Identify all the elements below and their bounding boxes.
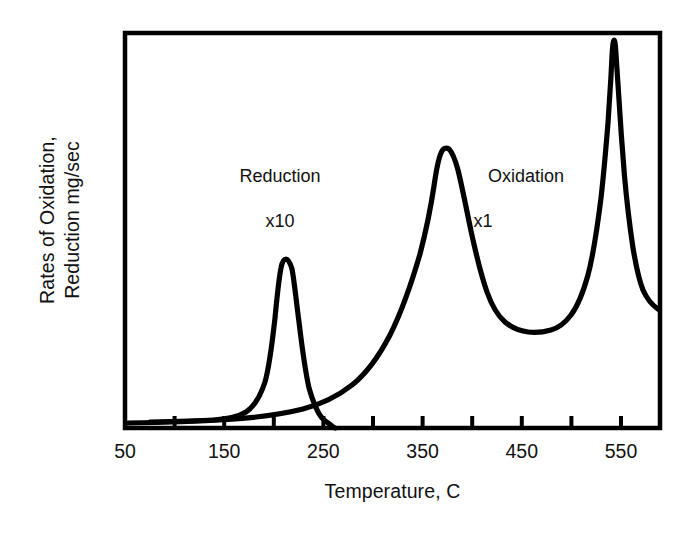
x-axis-label: Temperature, C (125, 480, 660, 503)
x-tick-label-250: 250 (307, 440, 340, 463)
x-tick-label-50: 50 (114, 440, 136, 463)
x-tick-label-150: 150 (208, 440, 241, 463)
x-axis-tick-labels: 50 150 250 350 450 550 (0, 440, 696, 468)
annotation-reduction-factor: x10 (265, 211, 294, 232)
x-tick-label-450: 450 (506, 440, 539, 463)
annotation-reduction-label: Reduction (239, 166, 320, 187)
series-reduction-x10 (150, 259, 335, 428)
annotation-oxidation-factor: x1 (473, 211, 492, 232)
series-oxidation-x1 (128, 40, 658, 423)
plot-frame (125, 33, 660, 428)
x-tick-label-550: 550 (605, 440, 638, 463)
x-tick-label-350: 350 (406, 440, 439, 463)
chart-figure: Rates of Oxidation, Reduction mg/sec 50 (0, 0, 696, 536)
annotation-oxidation-label: Oxidation (488, 166, 564, 187)
